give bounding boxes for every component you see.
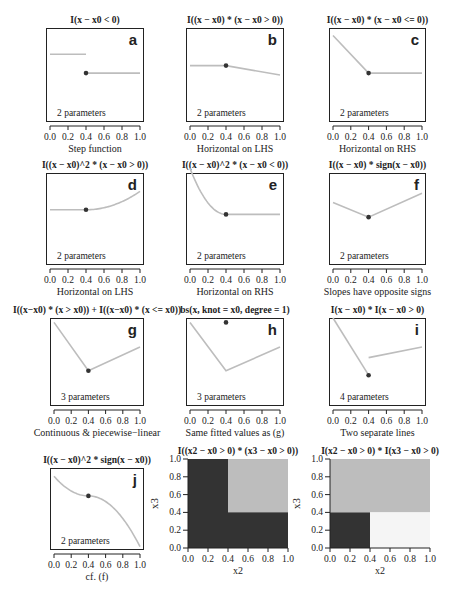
svg-text:1.0: 1.0 xyxy=(311,454,323,464)
svg-text:0.4: 0.4 xyxy=(364,554,376,564)
svg-text:0.2: 0.2 xyxy=(344,554,356,564)
plot-svg-l: 0.00.20.40.60.81.0x30.00.20.40.60.81.0 xyxy=(0,0,454,589)
svg-text:0.6: 0.6 xyxy=(311,490,323,500)
svg-text:0.0: 0.0 xyxy=(324,554,336,564)
svg-text:0.2: 0.2 xyxy=(311,525,323,535)
svg-text:1.0: 1.0 xyxy=(424,554,436,564)
svg-text:x3: x3 xyxy=(290,498,302,510)
svg-text:0.8: 0.8 xyxy=(404,554,416,564)
x-axis-label-l: x2 xyxy=(375,565,385,576)
svg-text:0.8: 0.8 xyxy=(311,472,323,482)
svg-text:0.4: 0.4 xyxy=(311,507,323,517)
svg-text:0.6: 0.6 xyxy=(384,554,396,564)
svg-text:0.0: 0.0 xyxy=(311,543,323,553)
